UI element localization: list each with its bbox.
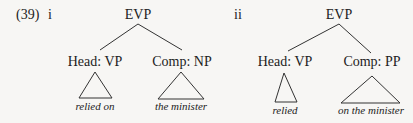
tree-ii: ii EVP Head: VP Comp: PP relied on the m… [234, 7, 405, 116]
tree-i-right-branch [138, 24, 182, 50]
tree-i-head-leaf: relied on [76, 100, 115, 112]
tree-i: i EVP Head: VP Comp: NP relied on the mi… [48, 7, 212, 112]
tree-ii-head-node: Head: VP [258, 54, 313, 69]
tree-ii-head-leaf: relied [272, 104, 298, 116]
tree-ii-comp-triangle [341, 76, 400, 103]
tree-ii-comp-leaf: on the minister [338, 104, 405, 116]
tree-ii-head-triangle [275, 73, 297, 102]
tree-i-comp-node: Comp: NP [152, 54, 212, 69]
tree-i-head-triangle [79, 72, 112, 98]
tree-i-label: i [48, 7, 52, 22]
example-number: (39) [16, 7, 40, 23]
tree-ii-root-node: EVP [326, 7, 353, 22]
tree-diagram-svg: (39) i EVP Head: VP Comp: NP relied on t… [0, 0, 413, 123]
tree-i-comp-leaf: the minister [155, 100, 208, 112]
tree-i-left-branch [100, 24, 138, 50]
tree-i-head-node: Head: VP [68, 54, 123, 69]
tree-i-comp-triangle [158, 72, 204, 99]
tree-ii-label: ii [234, 7, 242, 22]
tree-i-root-node: EVP [125, 7, 152, 22]
syntax-tree-figure: (39) i EVP Head: VP Comp: NP relied on t… [0, 0, 413, 123]
tree-ii-comp-node: Comp: PP [343, 54, 400, 69]
tree-ii-right-branch [339, 24, 371, 53]
tree-ii-left-branch [288, 24, 339, 51]
